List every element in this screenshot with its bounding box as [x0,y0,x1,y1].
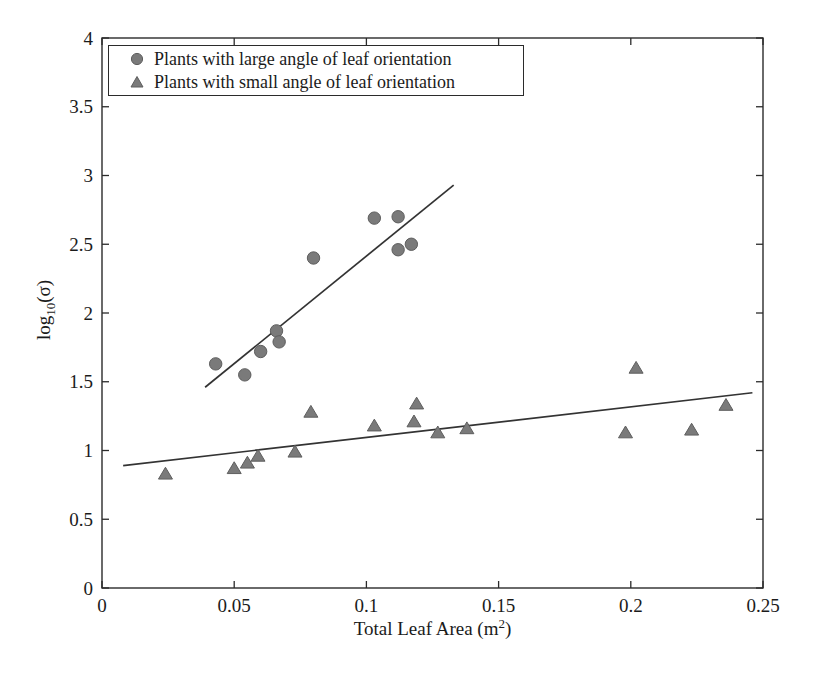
x-axis-label-text: Total Leaf Area (m [354,618,499,639]
x-axis-label: Total Leaf Area (m2) [102,616,763,640]
data-point-circle [270,325,282,337]
data-point-triangle [367,419,381,431]
data-point-triangle [685,423,699,435]
y-tick-label: 3 [84,165,94,186]
data-point-circle [368,212,380,224]
legend-item-small-angle: Plants with small angle of leaf orientat… [129,71,523,94]
x-tick-label: 0.1 [355,595,379,616]
plot-frame [102,38,763,588]
legend-label-large-angle: Plants with large angle of leaf orientat… [154,48,452,71]
x-tick-label: 0.2 [619,595,643,616]
trend-line-circle [205,185,454,387]
data-point-triangle [619,426,633,438]
x-axis-label-close: ) [505,618,511,639]
y-tick-label: 0.5 [69,509,93,530]
data-point-triangle [158,467,172,479]
x-tick-label: 0.15 [482,595,515,616]
data-point-triangle [629,361,643,373]
data-point-circle [405,238,417,250]
data-point-circle [254,345,266,357]
figure: 00.050.10.150.20.2500.511.522.533.54 Pla… [0,0,816,678]
y-axis-label-sub: 10 [43,303,58,316]
legend: Plants with large angle of leaf orientat… [108,45,524,96]
data-point-circle [209,358,221,370]
circle-marker-icon [129,52,145,67]
data-point-circle [392,211,404,223]
data-point-triangle [719,399,733,411]
data-point-circle [392,244,404,256]
data-point-circle [239,369,251,381]
scatter-plot: 00.050.10.150.20.2500.511.522.533.54 [0,0,816,678]
y-tick-label: 1.5 [69,371,93,392]
y-axis-label-text: log [33,316,54,340]
y-tick-label: 3.5 [69,96,93,117]
x-tick-label: 0.05 [218,595,251,616]
data-point-circle [307,252,319,264]
y-tick-label: 2 [84,303,94,324]
x-tick-label: 0 [97,595,107,616]
y-tick-label: 0 [84,578,94,599]
triangle-marker-icon [129,75,145,90]
legend-label-small-angle: Plants with small angle of leaf orientat… [154,71,455,94]
data-point-triangle [460,422,474,434]
data-point-triangle [304,405,318,417]
data-point-triangle [410,397,424,409]
data-point-circle [273,336,285,348]
data-point-triangle [227,462,241,474]
legend-item-large-angle: Plants with large angle of leaf orientat… [129,48,523,71]
x-tick-label: 0.25 [746,595,779,616]
y-tick-label: 1 [84,440,94,461]
y-tick-label: 4 [84,28,94,49]
y-axis-label-close: (σ) [33,280,54,303]
y-axis-label: log10(σ) [33,280,59,340]
data-point-triangle [407,415,421,427]
y-tick-label: 2.5 [69,234,93,255]
